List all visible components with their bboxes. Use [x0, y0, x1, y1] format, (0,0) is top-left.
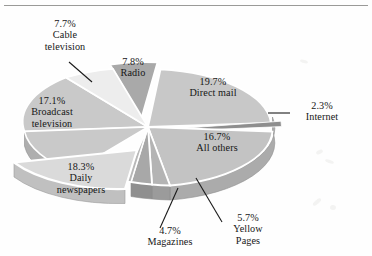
label-daily-newspapers-name-1: Daily: [28, 172, 134, 183]
label-magazines: 4.7% Magazines: [130, 225, 210, 248]
label-internet-name: Internet: [289, 111, 355, 122]
label-magazines-percent: 4.7%: [130, 225, 210, 236]
label-all-others: 16.7% All others: [175, 131, 259, 154]
label-all-others-percent: 16.7%: [175, 131, 259, 142]
label-yellow-pages-name-2: Pages: [221, 235, 275, 246]
label-direct-mail: 19.7% Direct mail: [168, 76, 258, 99]
label-radio-name: Radio: [105, 67, 161, 78]
label-all-others-name: All others: [175, 142, 259, 153]
label-radio-percent: 7.8%: [105, 56, 161, 67]
label-yellow-pages: 5.7% Yellow Pages: [221, 212, 275, 246]
label-daily-newspapers: 18.3% Daily newspapers: [28, 161, 134, 195]
label-radio: 7.8% Radio: [105, 56, 161, 79]
pie-chart-figure: 7.7% Cable television 17.1% Broadcast te…: [0, 0, 372, 256]
label-broadcast-television-percent: 17.1%: [6, 95, 98, 106]
label-cable-television-percent: 7.7%: [22, 18, 108, 29]
label-cable-television-name-2: television: [22, 41, 108, 52]
label-internet-percent: 2.3%: [289, 100, 355, 111]
label-daily-newspapers-percent: 18.3%: [28, 161, 134, 172]
label-broadcast-television: 17.1% Broadcast television: [6, 95, 98, 129]
label-direct-mail-percent: 19.7%: [168, 76, 258, 87]
label-broadcast-television-name-1: Broadcast: [6, 106, 98, 117]
label-yellow-pages-name-1: Yellow: [221, 223, 275, 234]
side-wall-yellow-pages: [152, 185, 170, 201]
label-internet: 2.3% Internet: [289, 100, 355, 123]
label-daily-newspapers-name-2: newspapers: [28, 184, 134, 195]
label-magazines-name: Magazines: [130, 236, 210, 247]
label-yellow-pages-percent: 5.7%: [221, 212, 275, 223]
label-broadcast-television-name-2: television: [6, 118, 98, 129]
label-cable-television: 7.7% Cable television: [22, 18, 108, 52]
label-direct-mail-name: Direct mail: [168, 87, 258, 98]
label-cable-television-name-1: Cable: [22, 29, 108, 40]
